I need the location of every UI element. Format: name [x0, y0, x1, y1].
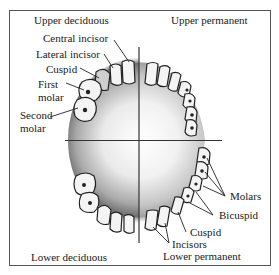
label-bicuspid: Bicuspid — [219, 209, 258, 221]
lateral-incisor-tooth — [110, 64, 122, 85]
label-first-molar-line1: First — [38, 78, 58, 90]
central-incisor-tooth — [124, 215, 134, 234]
lateral-incisor-tooth — [110, 212, 122, 232]
label-second-molar-line1: Second — [20, 109, 52, 121]
label-second-molar-line2: molar — [20, 122, 46, 134]
label-lower-permanent: Lower permanent — [163, 250, 241, 262]
central-incisor-tooth — [122, 60, 135, 84]
label-lateral-incisor: Lateral incisor — [36, 48, 100, 60]
label-cuspid-deciduous: Cuspid — [46, 63, 77, 75]
label-cuspid-permanent: Cuspid — [190, 226, 221, 238]
cuspid-tooth — [97, 205, 111, 224]
label-first-molar-line2: molar — [38, 91, 64, 103]
label-upper-permanent: Upper permanent — [171, 14, 248, 26]
label-upper-deciduous: Upper deciduous — [34, 14, 109, 26]
dental-arches-illustration — [0, 0, 279, 275]
label-incisors: Incisors — [172, 238, 207, 250]
label-molars: Molars — [230, 190, 261, 202]
central-incisor-tooth — [145, 210, 158, 230]
central-incisor-tooth — [145, 63, 158, 86]
label-central-incisor: Central incisor — [43, 32, 108, 44]
label-lower-deciduous: Lower deciduous — [31, 251, 107, 263]
